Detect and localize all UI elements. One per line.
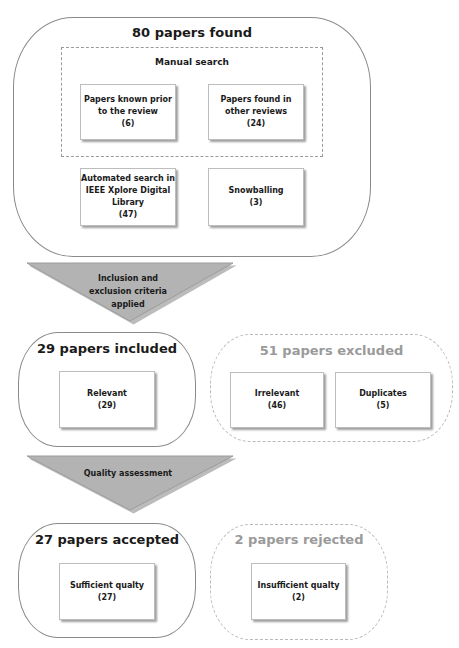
relevant-count: (29) — [98, 400, 116, 412]
snowballing-box: Snowballing (3) — [208, 168, 304, 226]
insufficient-count: (2) — [292, 592, 305, 604]
irrelevant-label: Irrelevant — [255, 388, 300, 400]
known-prior-label-2: to the review — [98, 106, 158, 118]
other-reviews-label-1: Papers found in — [220, 94, 291, 106]
papers-accepted-title: 27 papers accepted — [19, 532, 195, 547]
automated-label-3: Library — [112, 197, 144, 209]
snowballing-label: Snowballing — [228, 185, 283, 197]
insufficient-quality-box: Insufficient qualty (2) — [251, 563, 346, 620]
sufficient-quality-box: Sufficient qualty (27) — [59, 563, 155, 620]
irrelevant-count: (46) — [268, 400, 286, 412]
duplicates-label: Duplicates — [359, 388, 407, 400]
papers-rejected-title: 2 papers rejected — [211, 532, 387, 547]
automated-count: (47) — [119, 209, 137, 221]
known-prior-label-1: Papers known prior — [84, 94, 172, 106]
quality-triangle-icon — [24, 453, 238, 515]
snowballing-count: (3) — [250, 197, 263, 209]
papers-included-title: 29 papers included — [19, 341, 195, 356]
papers-excluded-title: 51 papers excluded — [211, 343, 452, 358]
other-reviews-box: Papers found in other reviews (24) — [208, 84, 304, 140]
known-prior-box: Papers known prior to the review (6) — [80, 84, 176, 140]
automated-label-2: IEEE Xplore Digital — [86, 185, 170, 197]
duplicates-box: Duplicates (5) — [335, 372, 431, 428]
inclusion-criteria-label: Inclusion and exclusion criteria applied — [78, 272, 178, 311]
relevant-label: Relevant — [87, 388, 127, 400]
automated-label-1: Automated search in — [81, 173, 175, 185]
quality-assessment-label: Quality assessment — [68, 467, 188, 480]
automated-search-box: Automated search in IEEE Xplore Digital … — [80, 168, 176, 226]
papers-found-title: 80 papers found — [14, 25, 370, 40]
inclusion-line-3: applied — [78, 298, 178, 311]
inclusion-line-2: exclusion criteria — [78, 285, 178, 298]
insufficient-label: Insufficient qualty — [258, 580, 340, 592]
inclusion-line-1: Inclusion and — [78, 272, 178, 285]
known-prior-count: (6) — [122, 118, 135, 130]
sufficient-label: Sufficient qualty — [70, 580, 144, 592]
duplicates-count: (5) — [377, 400, 390, 412]
irrelevant-box: Irrelevant (46) — [230, 372, 324, 428]
manual-search-title: Manual search — [62, 57, 322, 67]
other-reviews-count: (24) — [247, 118, 265, 130]
sufficient-count: (27) — [98, 592, 116, 604]
relevant-box: Relevant (29) — [59, 371, 155, 428]
other-reviews-label-2: other reviews — [225, 106, 287, 118]
